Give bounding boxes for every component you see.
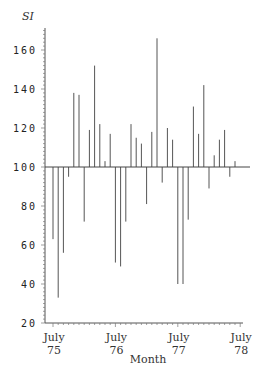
x-axis: July75July76July77July78 (42, 323, 252, 357)
x-tick-label-month: July (230, 331, 253, 344)
x-tick-label-year: 76 (109, 344, 123, 357)
y-tick-label: 80 (21, 201, 37, 212)
seasonal-index-chart: SI 20406080100120140160 July75July76July… (0, 0, 263, 387)
y-axis-title: SI (22, 10, 35, 23)
x-tick-label-month: July (42, 331, 65, 344)
y-tick-label: 160 (13, 45, 37, 56)
x-axis-title: Month (130, 353, 166, 366)
x-tick-label-month: July (105, 331, 128, 344)
y-axis: 20406080100120140160 (13, 28, 45, 329)
bars (53, 38, 235, 297)
y-tick-label: 20 (21, 318, 37, 329)
y-tick-label: 40 (21, 279, 37, 290)
x-tick-label-year: 75 (47, 344, 61, 357)
y-tick-label: 60 (21, 240, 37, 251)
x-tick-label-month: July (167, 331, 190, 344)
y-tick-label: 140 (13, 84, 37, 95)
x-tick-label-year: 77 (172, 344, 186, 357)
y-tick-label: 100 (13, 162, 37, 173)
y-tick-label: 120 (13, 123, 37, 134)
x-tick-label-year: 78 (234, 344, 248, 357)
